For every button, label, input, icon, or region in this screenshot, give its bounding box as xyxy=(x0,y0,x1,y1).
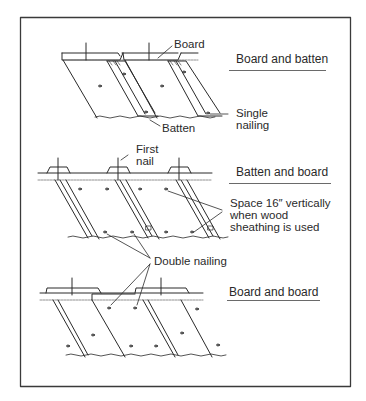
panel-title-batten-and-board: Batten and board xyxy=(236,165,328,179)
label-spacing-note: Space 16″ vertically when wood sheathing… xyxy=(230,197,331,233)
title-underline xyxy=(229,70,326,71)
panel-batten-and-board xyxy=(38,155,228,258)
title-underline xyxy=(229,183,331,184)
label-board: Board xyxy=(174,38,205,50)
panel-board-and-board xyxy=(40,264,226,357)
panel-title-board-and-batten: Board and batten xyxy=(236,52,328,66)
label-first-nail: First nail xyxy=(136,143,158,167)
siding-diagram: Board Batten Single nailing Board and ba… xyxy=(0,0,366,401)
panel-board-and-batten xyxy=(62,43,228,126)
label-batten: Batten xyxy=(162,122,195,134)
panel-title-board-and-board: Board and board xyxy=(229,285,318,299)
label-double-nailing: Double nailing xyxy=(154,255,227,267)
label-single-nailing: Single nailing xyxy=(236,107,269,131)
title-underline xyxy=(227,300,320,301)
